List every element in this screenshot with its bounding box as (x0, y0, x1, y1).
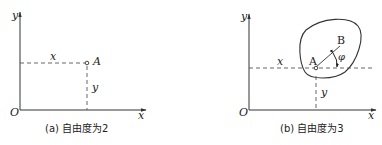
rigid-body-outline (300, 19, 361, 78)
panel-a: y x O A x y (a) 自由度为2 (10, 9, 146, 134)
dash-y-label: y (320, 86, 328, 99)
x-axis-label: x (138, 109, 145, 122)
dash-y-label: y (91, 81, 99, 94)
angle-arc-phi (333, 53, 337, 67)
origin-label: O (239, 106, 248, 119)
dash-x-label: x (50, 50, 57, 63)
point-a-label: A (92, 55, 101, 68)
origin-label: O (10, 106, 19, 119)
caption-a: (a) 自由度为2 (45, 122, 108, 134)
panel-b: y x O A B φ x y (b) 自由度为3 (239, 10, 376, 134)
caption-b: (b) 自由度为3 (280, 122, 344, 134)
y-axis-label: y (240, 10, 248, 23)
y-axis-label: y (11, 9, 19, 22)
point-b-label: B (337, 34, 345, 47)
point-a-label: A (308, 55, 318, 68)
point-a (85, 61, 89, 65)
angle-phi-label: φ (338, 51, 345, 62)
segment-ab (316, 46, 340, 67)
x-axis-label: x (368, 109, 375, 122)
dash-x-label: x (277, 55, 284, 68)
diagram-canvas: y x O A x y (a) 自由度为2 y x O A B φ x y (b… (0, 0, 382, 145)
